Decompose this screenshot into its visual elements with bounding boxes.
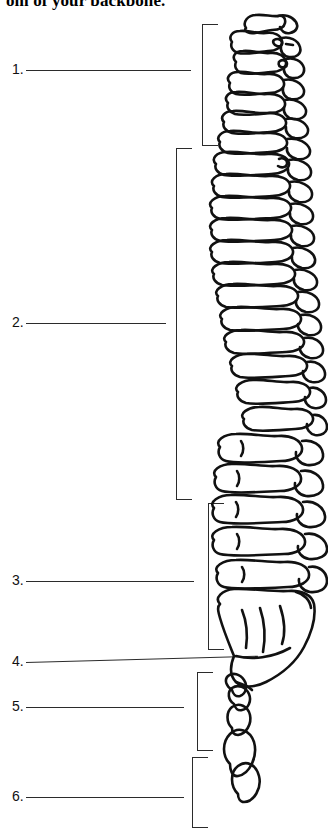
label-number-1: 1. [12,60,24,78]
spine-labeling-worksheet: om of your backbone. 1. 2. 3. 4. 5. 6. [0,0,328,839]
label-row-2: 2. [12,313,166,331]
label-number-5: 5. [12,697,24,715]
label-row-6: 6. [12,787,184,805]
answer-blank-1[interactable] [26,70,191,71]
label-number-2: 2. [12,313,24,331]
label-row-3: 3. [12,571,194,589]
answer-blank-6[interactable] [26,797,184,798]
label-row-5: 5. [12,697,184,715]
answer-blank-5[interactable] [26,707,184,708]
spine-illustration [186,4,328,839]
label-number-4: 4. [12,652,24,670]
label-row-1: 1. [12,60,191,78]
label-number-3: 3. [12,571,24,589]
answer-blank-2[interactable] [26,323,166,324]
label-number-6: 6. [12,787,24,805]
answer-blank-3[interactable] [26,581,194,582]
